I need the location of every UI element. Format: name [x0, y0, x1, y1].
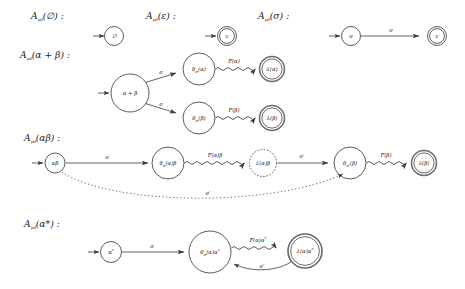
state-lambda-alpha-beta-label: λ(α)β: [255, 160, 270, 167]
caption-empty: Apd(∅) :: [30, 10, 64, 22]
row-sigma: Apd(σ) : σ σ ε: [257, 10, 447, 46]
edge-sigma-prime-loopback-label: σ′: [260, 263, 266, 269]
edge-sigma-prime-label: σ′: [300, 153, 306, 159]
svg-text:Apd(∅) :: Apd(∅) :: [30, 10, 64, 22]
edge-F-alpha[interactable]: [216, 68, 256, 71]
caption-union: Apd(α + β) :: [19, 49, 70, 61]
state-epsilon-label: ε: [226, 33, 229, 39]
state-theta-sigma-alpha-label: θσ(α): [192, 66, 206, 74]
caption-epsilon: Apd(ε) :: [145, 10, 176, 22]
caption-concat: Apd(αβ) :: [23, 132, 60, 144]
state-lambda-alpha-label: λ(α): [265, 66, 277, 72]
state-epsilon-label: ε: [436, 33, 439, 39]
state-sigma-label: σ: [349, 33, 353, 39]
edge-sigma-label: σ: [105, 154, 109, 160]
state-lambda-beta-label: λ(β): [266, 115, 278, 122]
caption-argument: (α + β) :: [32, 49, 70, 60]
row-epsilon: Apd(ε) : ε: [145, 10, 237, 46]
caption-argument: (αβ) :: [36, 132, 61, 143]
row-empty: Apd(∅) : ∅: [30, 10, 124, 46]
state-theta-sigma-alpha-star-label: θσ(α)α*: [200, 248, 219, 257]
state-theta-sigma-beta-label: θσ(β): [192, 115, 205, 123]
edge-F-beta[interactable]: [367, 162, 407, 165]
edge-F-alpha-label: F(α): [227, 58, 240, 64]
state-theta-sigmaprime-beta-label: θσ′(β): [343, 160, 357, 168]
state-alpha-plus-beta-label: α + β: [123, 90, 138, 97]
row-concat: Apd(αβ) : αβ σ θσ(α)β F(α)β λ(α)β σ′ θσ′…: [23, 132, 437, 198]
svg-text:Apd(ε) :: Apd(ε) :: [145, 10, 176, 22]
caption-star: Apd(α*) :: [23, 218, 60, 230]
edge-F-beta[interactable]: [216, 117, 256, 120]
svg-text:Apd(σ) :: Apd(σ) :: [257, 10, 289, 22]
caption-argument: (ε) :: [158, 10, 176, 21]
state-alpha-star-label: α*: [108, 248, 114, 255]
edge-F-beta-label: F(β): [227, 107, 239, 114]
state-lambda-alpha-star-label: λ(α)α*: [296, 247, 314, 254]
state-alpha-beta-label: αβ: [52, 160, 59, 167]
edge-sigma-lower-label: σ: [159, 101, 163, 107]
caption-argument: (α*) :: [36, 218, 60, 229]
state-lambda-beta-label: λ(β): [418, 160, 430, 167]
row-union: Apd(α + β) : α + β σ σ θσ(α) θσ(β) F(α) …: [19, 49, 285, 134]
edge-sigma-label: σ: [150, 243, 154, 249]
edge-sigma-prime-bypass[interactable]: [62, 172, 343, 198]
caption-argument: (∅) :: [43, 10, 64, 21]
edge-sigma-upper-label: σ: [159, 69, 163, 75]
row-star: Apd(α*) : α* σ θσ(α)α* F(α)α* λ(α)α* σ′: [23, 218, 322, 273]
edge-F-beta-label: F(β): [379, 152, 391, 159]
caption-argument: (σ) :: [270, 10, 289, 21]
state-emptyset-label: ∅: [112, 33, 117, 39]
svg-text:Apd(α + β) :: Apd(α + β) :: [19, 49, 70, 61]
svg-text:Apd(α*) :: Apd(α*) :: [23, 218, 60, 230]
edge-F-alpha-beta[interactable]: [185, 162, 245, 165]
edge-sigma-label: σ: [389, 27, 393, 33]
svg-text:Apd(αβ) :: Apd(αβ) :: [23, 132, 60, 144]
edge-F-alpha-beta-label: F(α)β: [207, 152, 223, 159]
edge-F-alpha-star-label: F(α)α*: [248, 236, 266, 243]
caption-sigma: Apd(σ) :: [257, 10, 289, 22]
edge-sigma-prime-bypass-label: σ′: [206, 190, 212, 196]
edge-F-alpha-star[interactable]: [232, 247, 277, 250]
automata-figure: Apd(∅) : ∅ Apd(ε) : ε Apd(σ) : σ σ: [0, 0, 465, 289]
state-theta-sigma-alpha-beta-label: θσ(α)β: [160, 160, 177, 168]
